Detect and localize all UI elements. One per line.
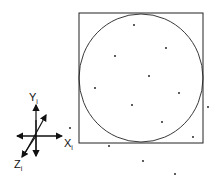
sample-point	[133, 24, 135, 26]
sample-point	[207, 106, 209, 108]
sample-point	[114, 55, 116, 57]
sample-point	[178, 92, 180, 94]
sample-point	[131, 104, 133, 106]
coordinate-axes-icon	[17, 105, 62, 157]
sample-point	[69, 127, 71, 129]
sample-points	[69, 24, 209, 175]
x-axis-label: Xi	[64, 138, 73, 151]
inscribed-circle	[79, 14, 203, 142]
z-axis-label: Zi	[14, 159, 22, 172]
sample-point	[94, 87, 96, 89]
sample-point	[142, 160, 144, 162]
sample-point	[161, 121, 163, 123]
sample-point	[174, 173, 176, 175]
sample-point	[108, 145, 110, 147]
sample-point	[165, 47, 167, 49]
sample-point	[192, 136, 194, 138]
y-axis-label: Yi	[29, 92, 38, 105]
sample-point	[148, 75, 150, 77]
